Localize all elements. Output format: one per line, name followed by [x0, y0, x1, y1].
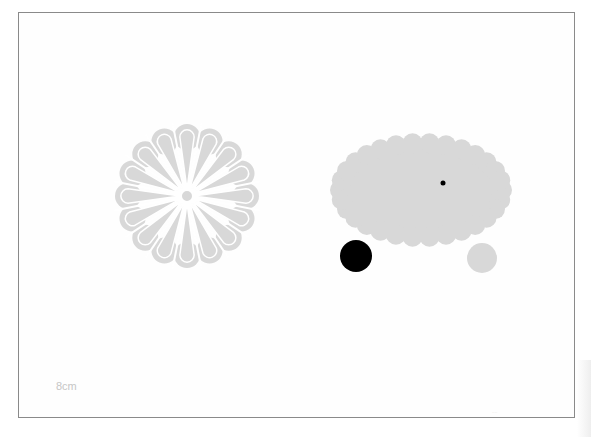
flower-shape	[114, 123, 259, 268]
diagram-canvas	[0, 0, 591, 437]
scalloped-ellipse-shape	[330, 133, 512, 246]
center-dot	[441, 181, 446, 186]
black-circle	[340, 240, 372, 272]
scale-label: 8cm	[56, 380, 77, 392]
footer-mark: ····	[492, 410, 497, 415]
gray-circle	[467, 243, 497, 273]
